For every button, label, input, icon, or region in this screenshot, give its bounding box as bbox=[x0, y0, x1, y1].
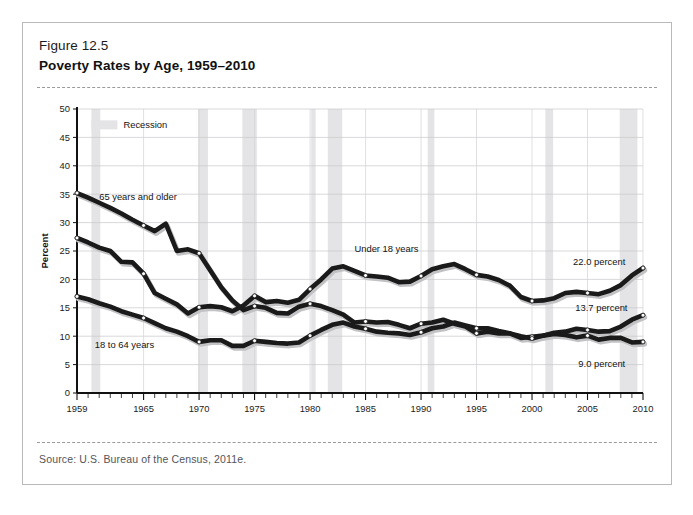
data-point-marker bbox=[308, 302, 312, 306]
data-point-marker bbox=[641, 340, 645, 344]
data-point-marker bbox=[197, 305, 201, 309]
data-point-marker bbox=[475, 331, 479, 335]
data-point-marker bbox=[253, 304, 257, 308]
data-point-marker bbox=[586, 291, 590, 295]
series-label-18-to-64: 18 to 64 years bbox=[95, 339, 155, 350]
data-point-marker bbox=[364, 273, 368, 277]
divider-bottom bbox=[37, 442, 657, 443]
x-axis-tick-label: 1990 bbox=[411, 403, 432, 414]
data-point-marker bbox=[253, 294, 257, 298]
data-point-marker bbox=[142, 272, 146, 276]
source-note: Source: U.S. Bureau of the Census, 2011e… bbox=[39, 453, 246, 465]
data-point-marker bbox=[530, 299, 534, 303]
x-axis-tick-label: 2000 bbox=[522, 403, 543, 414]
end-label-under-18: 22.0 percent bbox=[573, 256, 626, 267]
data-point-marker bbox=[530, 336, 534, 340]
data-point-marker bbox=[142, 316, 146, 320]
x-axis-tick-label: 1985 bbox=[355, 403, 376, 414]
chart-legend: Recession bbox=[91, 119, 167, 130]
figure-card: Figure 12.5 Poverty Rates by Age, 1959–2… bbox=[22, 22, 672, 485]
data-point-marker bbox=[586, 334, 590, 338]
x-axis-tick-label: 1980 bbox=[300, 403, 321, 414]
data-point-marker bbox=[475, 326, 479, 330]
data-point-marker bbox=[308, 334, 312, 338]
series-label-65-and-older: 65 years and older bbox=[99, 191, 177, 202]
data-point-marker bbox=[419, 322, 423, 326]
series-line bbox=[77, 193, 643, 342]
data-point-marker bbox=[253, 339, 257, 343]
data-point-marker bbox=[75, 294, 79, 298]
y-axis-tick-label: 20 bbox=[60, 274, 70, 285]
y-axis-tick-label: 30 bbox=[60, 217, 70, 228]
data-point-marker bbox=[142, 223, 146, 227]
page-title: Poverty Rates by Age, 1959–2010 bbox=[39, 56, 255, 75]
y-axis-tick-label: 25 bbox=[60, 245, 70, 256]
x-axis-tick-label: 2005 bbox=[577, 403, 598, 414]
data-point-marker bbox=[75, 191, 79, 195]
data-point-marker bbox=[475, 273, 479, 277]
data-point-marker bbox=[197, 340, 201, 344]
end-label-18-to-64: 13.7 percent bbox=[575, 302, 628, 313]
chart-plot-area: 05101520253035404550Percent 195919651970… bbox=[37, 99, 657, 435]
data-point-marker bbox=[419, 330, 423, 334]
figure-number: Figure 12.5 bbox=[39, 37, 255, 55]
y-axis-tick-label: 5 bbox=[65, 359, 70, 370]
y-axis-group: 05101520253035404550Percent bbox=[39, 103, 77, 398]
data-point-marker bbox=[197, 251, 201, 255]
x-axis-tick-label: 1965 bbox=[133, 403, 154, 414]
data-point-marker bbox=[586, 328, 590, 332]
data-point-marker bbox=[75, 236, 79, 240]
data-point-marker bbox=[641, 313, 645, 317]
y-axis-tick-label: 50 bbox=[60, 103, 70, 114]
y-axis-tick-label: 0 bbox=[65, 387, 70, 398]
data-point-marker bbox=[364, 319, 368, 323]
x-axis-tick-label: 1995 bbox=[466, 403, 487, 414]
x-axis-tick-label: 1975 bbox=[244, 403, 265, 414]
y-axis-tick-label: 15 bbox=[60, 302, 70, 313]
series-lines-group bbox=[77, 193, 643, 346]
data-point-marker bbox=[419, 274, 423, 278]
legend-label-recession: Recession bbox=[123, 119, 167, 130]
poverty-rates-line-chart: 05101520253035404550Percent 195919651970… bbox=[37, 99, 657, 435]
x-axis-tick-label: 1959 bbox=[67, 403, 88, 414]
y-axis-tick-label: 10 bbox=[60, 331, 70, 342]
divider-top bbox=[37, 87, 657, 88]
y-axis-title: Percent bbox=[39, 233, 50, 269]
data-point-marker bbox=[308, 287, 312, 291]
data-point-marker bbox=[641, 266, 645, 270]
y-axis-tick-label: 40 bbox=[60, 160, 70, 171]
data-point-marker bbox=[364, 327, 368, 331]
x-axis-group: 1959196519701975198019851990199520002005… bbox=[67, 393, 654, 414]
y-axis-tick-label: 45 bbox=[60, 132, 70, 143]
legend-swatch-recession bbox=[91, 120, 117, 129]
y-axis-tick-label: 35 bbox=[60, 189, 70, 200]
x-axis-tick-label: 2010 bbox=[633, 403, 654, 414]
x-axis-tick-label: 1970 bbox=[189, 403, 210, 414]
figure-header: Figure 12.5 Poverty Rates by Age, 1959–2… bbox=[39, 37, 255, 75]
series-label-under-18: Under 18 years bbox=[354, 243, 418, 254]
end-label-65-and-older: 9.0 percent bbox=[578, 358, 625, 369]
